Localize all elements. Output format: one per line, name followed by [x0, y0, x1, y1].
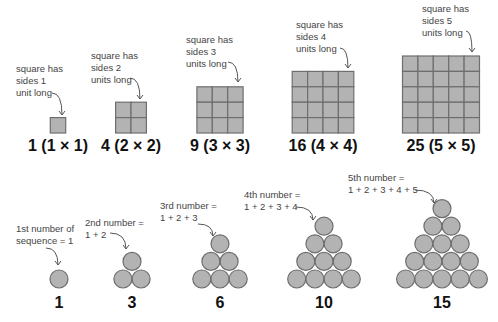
unit-circle: [451, 270, 469, 288]
unit-circle: [123, 252, 141, 270]
unit-square: [433, 87, 448, 102]
unit-square: [308, 71, 323, 86]
unit-square: [212, 87, 227, 102]
unit-square: [131, 102, 146, 117]
unit-square: [418, 71, 433, 86]
unit-circle: [315, 217, 333, 235]
square-4-annotation: square has sides 4 units long: [296, 19, 343, 55]
unit-square: [449, 102, 464, 117]
unit-circle: [406, 252, 424, 270]
unit-square: [323, 118, 338, 133]
square-5-annotation: square has sides 5 units long: [422, 3, 469, 39]
unit-square: [433, 102, 448, 117]
shapes-layer: [0, 0, 498, 322]
square-3-label: 9 (3 × 3): [190, 137, 250, 155]
square-5-label: 25 (5 × 5): [407, 137, 476, 155]
triangle-3-label: 6: [216, 294, 225, 312]
unit-circle: [202, 252, 220, 270]
unit-square: [323, 71, 338, 86]
unit-square: [464, 118, 479, 133]
triangle-2-annotation: 2nd number = 1 + 2: [85, 217, 144, 241]
square-2-label: 4 (2 × 2): [101, 137, 161, 155]
unit-square: [338, 71, 353, 86]
unit-square: [464, 102, 479, 117]
unit-square: [292, 118, 307, 133]
unit-circle: [451, 235, 469, 253]
unit-square: [308, 87, 323, 102]
unit-square: [228, 87, 243, 102]
unit-circle: [324, 270, 342, 288]
triangle-1-label: 1: [55, 294, 64, 312]
unit-square: [449, 118, 464, 133]
unit-square: [449, 87, 464, 102]
unit-square: [116, 102, 131, 117]
unit-circle: [132, 270, 150, 288]
unit-circle: [397, 270, 415, 288]
unit-square: [403, 118, 418, 133]
unit-circle: [193, 270, 211, 288]
unit-square: [403, 71, 418, 86]
unit-square: [418, 102, 433, 117]
unit-square: [228, 118, 243, 133]
unit-circle: [297, 252, 315, 270]
unit-square: [418, 87, 433, 102]
unit-circle: [114, 270, 132, 288]
unit-square: [433, 71, 448, 86]
unit-square: [464, 87, 479, 102]
unit-square: [449, 56, 464, 71]
unit-circle: [211, 270, 229, 288]
triangle-5-label: 15: [433, 294, 451, 312]
unit-circle: [415, 270, 433, 288]
pointer-arrow-icon: [198, 224, 213, 236]
unit-square: [212, 102, 227, 117]
unit-square: [433, 118, 448, 133]
unit-square: [292, 102, 307, 117]
unit-square: [212, 118, 227, 133]
unit-circle: [306, 235, 324, 253]
unit-square: [418, 118, 433, 133]
square-1-label: 1 (1 × 1): [28, 137, 88, 155]
unit-square: [197, 118, 212, 133]
unit-circle: [315, 252, 333, 270]
unit-circle: [50, 270, 68, 288]
unit-circle: [220, 252, 238, 270]
unit-square: [308, 102, 323, 117]
unit-square: [403, 56, 418, 71]
unit-circle: [306, 270, 324, 288]
pointer-arrow-icon: [415, 190, 434, 203]
square-3-annotation: square has sides 3 units long: [186, 34, 233, 70]
unit-square: [449, 71, 464, 86]
unit-circle: [333, 252, 351, 270]
unit-square: [338, 102, 353, 117]
unit-circle: [288, 270, 306, 288]
triangle-4-annotation: 4th number = 1 + 2 + 3 + 4: [244, 189, 300, 213]
square-2-annotation: square has sides 2 units long: [91, 50, 138, 86]
unit-circle: [324, 235, 342, 253]
unit-circle: [433, 200, 451, 218]
triangle-2-label: 3: [128, 294, 137, 312]
unit-square: [433, 56, 448, 71]
unit-square: [403, 87, 418, 102]
unit-square: [292, 71, 307, 86]
unit-circle: [342, 270, 360, 288]
unit-square: [403, 102, 418, 117]
square-1-annotation: square has sides 1 unit long: [16, 63, 63, 99]
unit-circle: [433, 270, 451, 288]
unit-circle: [442, 252, 460, 270]
unit-square: [464, 71, 479, 86]
unit-square: [228, 102, 243, 117]
unit-circle: [424, 252, 442, 270]
unit-circle: [460, 252, 478, 270]
triangle-3-annotation: 3rd number = 1 + 2 + 3: [160, 200, 217, 224]
unit-circle: [211, 235, 229, 253]
unit-square: [464, 56, 479, 71]
unit-square: [418, 56, 433, 71]
square-4-label: 16 (4 × 4): [289, 137, 358, 155]
unit-circle: [442, 217, 460, 235]
unit-square: [308, 118, 323, 133]
unit-square: [338, 118, 353, 133]
unit-square: [323, 102, 338, 117]
triangle-5-annotation: 5th number = 1 + 2 + 3 + 4 + 5: [348, 172, 418, 196]
triangle-4-label: 10: [315, 294, 333, 312]
unit-circle: [415, 235, 433, 253]
